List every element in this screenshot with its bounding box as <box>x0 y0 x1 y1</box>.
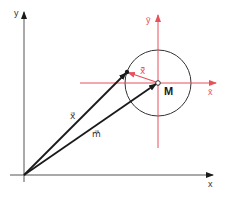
x-vector <box>24 73 126 175</box>
m-vector <box>24 84 156 175</box>
center-point-m <box>156 81 161 86</box>
local-x-vector-label: x̄⃗ <box>140 66 146 76</box>
local-y-axis-label: ȳ <box>146 15 151 25</box>
y-axis-label: y <box>14 8 19 18</box>
local-x-axis-label: x̄ <box>208 87 213 97</box>
m-vector-label: m⃗ <box>92 129 101 139</box>
point-m-label: M <box>164 85 173 97</box>
x-vector-label: x⃗ <box>70 111 76 121</box>
point-on-circle <box>125 70 129 74</box>
x-axis-label: x <box>208 179 213 189</box>
vector-diagram: y x ȳ x̄ x̄⃗ x⃗ m⃗ M <box>0 0 228 200</box>
